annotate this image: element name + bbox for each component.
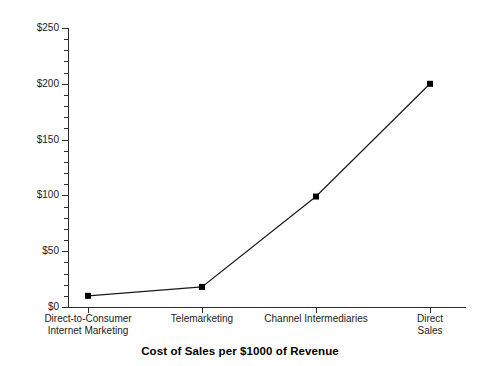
data-point-marker (427, 81, 433, 87)
data-point-marker (199, 284, 205, 290)
data-series (0, 0, 480, 366)
series-line (88, 84, 430, 296)
data-point-marker (313, 194, 319, 200)
chart-figure: $0$50$100$150$200$250 Direct-to-Consumer… (0, 0, 480, 366)
chart-title: Cost of Sales per $1000 of Revenue (0, 345, 480, 357)
series-markers (85, 81, 433, 299)
data-point-marker (85, 293, 91, 299)
